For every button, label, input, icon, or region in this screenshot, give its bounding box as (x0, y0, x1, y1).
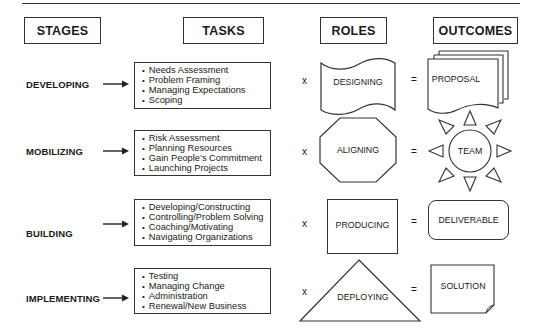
stage-label: IMPLEMENTING (26, 293, 100, 304)
equals-operator: = (411, 146, 417, 157)
task-list: Needs Assessment Problem Framing Managin… (142, 66, 270, 106)
role-label: ALIGNING (318, 143, 398, 157)
task-item: Scoping (142, 96, 270, 106)
task-item: Launching Projects (142, 164, 270, 174)
stage-label: MOBILIZING (26, 146, 83, 157)
header-stages-label: STAGES (37, 24, 89, 38)
multiply-operator: x (302, 75, 307, 86)
header-roles-label: ROLES (331, 24, 375, 38)
arrow-right-icon (103, 80, 129, 88)
header-tasks: TASKS (183, 17, 264, 44)
task-item: Navigating Organizations (142, 233, 270, 243)
arrow-right-icon (103, 147, 129, 155)
multiply-operator: x (302, 218, 307, 229)
task-list: Risk Assessment Planning Resources Gain … (142, 134, 270, 174)
outcome-label: DELIVERABLE (428, 213, 509, 227)
role-label: PRODUCING (327, 218, 398, 232)
header-roles: ROLES (320, 17, 387, 44)
task-box: Risk Assessment Planning Resources Gain … (134, 130, 271, 176)
arrow-right-icon (103, 220, 129, 228)
header-outcomes-label: OUTCOMES (439, 24, 513, 38)
outcome-label: PROPOSAL (428, 72, 484, 86)
outcome-label: SOLUTION (430, 279, 496, 293)
task-box: Testing Managing Change Administration R… (134, 268, 271, 314)
header-outcomes: OUTCOMES (433, 17, 518, 44)
role-label: DESIGNING (317, 75, 399, 89)
task-list: Testing Managing Change Administration R… (142, 272, 270, 312)
equals-operator: = (411, 284, 417, 295)
header-tasks-label: TASKS (202, 24, 244, 38)
role-label: DEPLOYING (328, 290, 398, 304)
stage-label: BUILDING (26, 228, 73, 239)
task-box: Developing/Constructing Controlling/Prob… (134, 199, 271, 246)
equals-operator: = (411, 74, 417, 85)
task-item: Renewal/New Business (142, 302, 270, 312)
top-rule (22, 3, 520, 4)
equals-operator: = (411, 216, 417, 227)
task-list: Developing/Constructing Controlling/Prob… (142, 203, 270, 243)
multiply-operator: x (302, 146, 307, 157)
outcome-label: TEAM (450, 144, 490, 158)
arrow-right-icon (103, 294, 129, 302)
stage-label: DEVELOPING (26, 79, 89, 90)
header-stages: STAGES (24, 17, 101, 44)
task-box: Needs Assessment Problem Framing Managin… (134, 62, 271, 109)
